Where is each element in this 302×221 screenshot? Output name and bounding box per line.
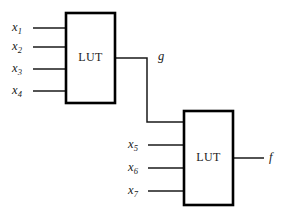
- signal-label-x7: x7: [128, 184, 138, 197]
- signal-label-x5: x5: [128, 138, 138, 151]
- diagram-canvas: LUT LUT x1 x2 x3 x4 x5 x6 x7 g f: [0, 0, 302, 221]
- signal-label-f: f: [269, 151, 272, 164]
- lut-block-1[interactable]: LUT: [66, 13, 115, 103]
- logic-diagram-svg: LUT LUT: [0, 0, 302, 221]
- signal-label-x6: x6: [128, 161, 138, 174]
- signal-label-x3: x3: [12, 62, 22, 75]
- signal-label-x1: x1: [12, 21, 22, 34]
- signal-label-x4: x4: [12, 84, 22, 97]
- signal-label-g: g: [158, 50, 164, 63]
- lut-block-2[interactable]: LUT: [184, 111, 233, 205]
- wire-g-net: [114, 58, 185, 122]
- lut2-label: LUT: [196, 150, 221, 164]
- lut1-label: LUT: [78, 50, 103, 64]
- signal-label-x2: x2: [12, 40, 22, 53]
